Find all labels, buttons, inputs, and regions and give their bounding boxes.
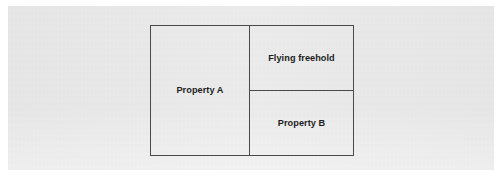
diagram-right-column: Flying freehold Property B	[250, 26, 353, 155]
diagram-cell-property-a: Property A	[151, 26, 250, 155]
diagram-label-property-b: Property B	[278, 118, 325, 128]
diagram-label-flying-freehold: Flying freehold	[268, 53, 335, 63]
diagram-label-property-a: Property A	[176, 85, 223, 95]
property-plan-diagram: Property A Flying freehold Property B	[150, 25, 354, 156]
diagram-cell-property-b: Property B	[250, 91, 353, 155]
figure-root: Property A Flying freehold Property B	[0, 0, 504, 179]
diagram-cell-flying-freehold: Flying freehold	[250, 26, 353, 91]
